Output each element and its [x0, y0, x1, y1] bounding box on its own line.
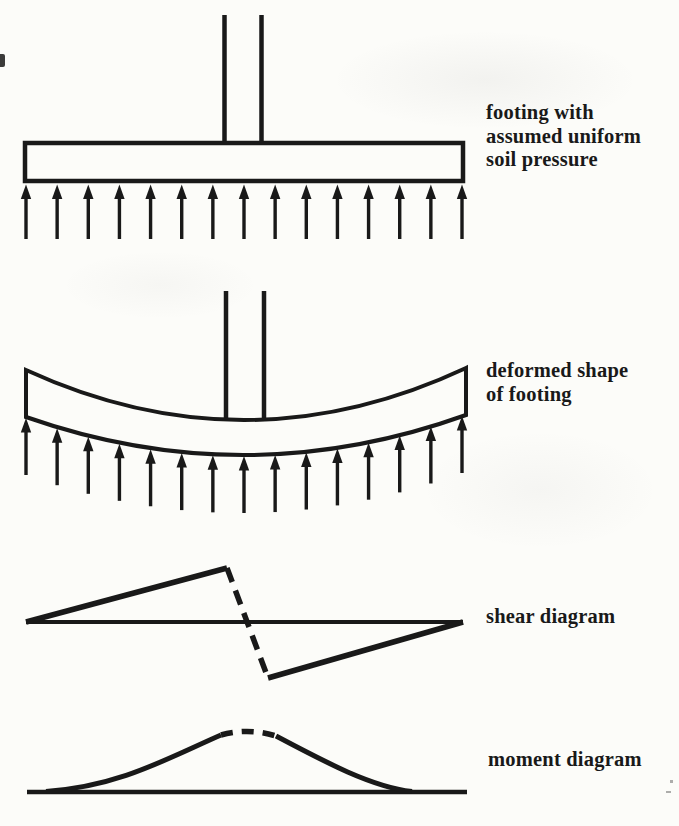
label-line: shear diagram — [486, 605, 615, 629]
up-arrow-head — [270, 185, 280, 200]
label-line: assumed uniform — [486, 125, 641, 149]
up-arrow-head — [363, 185, 373, 200]
up-arrow-head — [52, 185, 62, 200]
soil-pressure-arrows — [21, 185, 467, 240]
up-arrow-head — [301, 185, 311, 200]
up-arrow-head — [145, 185, 155, 200]
up-arrow-head — [52, 428, 62, 443]
label-shear-diagram: shear diagram — [486, 605, 615, 629]
label-line: deformed shape — [486, 359, 628, 383]
label-footing-uniform-pressure: footing with assumed uniform soil pressu… — [486, 101, 641, 172]
up-arrow-head — [395, 185, 405, 200]
fig-footing-uniform-pressure — [21, 15, 467, 239]
footing-outline — [25, 143, 463, 181]
up-arrow-head — [114, 185, 124, 200]
up-arrow-head — [457, 185, 467, 200]
up-arrow-head — [21, 185, 31, 200]
label-deformed-shape: deformed shape of footing — [486, 359, 628, 406]
shear-right-slope — [268, 622, 463, 678]
up-arrow-head — [239, 456, 249, 471]
label-line: footing with — [486, 101, 641, 125]
up-arrow-head — [114, 444, 124, 459]
up-arrow-head — [177, 453, 187, 468]
up-arrow-head — [426, 185, 436, 200]
textbook-figure-page: footing with assumed uniform soil pressu… — [0, 0, 679, 826]
up-arrow-head — [208, 185, 218, 200]
up-arrow-head — [208, 455, 218, 470]
fig-moment-diagram — [27, 731, 467, 792]
fig-shear-diagram — [26, 568, 463, 678]
up-arrow-head — [83, 185, 93, 200]
up-arrow-head — [145, 449, 155, 464]
up-arrow-head — [332, 185, 342, 200]
label-line: soil pressure — [486, 148, 641, 172]
label-line: moment diagram — [488, 748, 642, 772]
label-line: of footing — [486, 383, 628, 407]
moment-left-curve — [46, 735, 221, 792]
up-arrow-head — [301, 453, 311, 468]
up-arrow-head — [83, 437, 93, 452]
scan-artifact — [670, 780, 673, 783]
shear-left-slope — [26, 568, 227, 622]
up-arrow-head — [239, 185, 249, 200]
up-arrow-head — [270, 455, 280, 470]
label-moment-diagram: moment diagram — [488, 748, 642, 772]
up-arrow-head — [332, 448, 342, 463]
moment-right-curve — [276, 736, 412, 792]
scan-artifact — [0, 54, 5, 67]
fig-deformed-footing — [21, 291, 467, 513]
moment-crest-dashed — [221, 731, 276, 736]
scan-artifact — [666, 791, 671, 793]
up-arrow-head — [177, 185, 187, 200]
